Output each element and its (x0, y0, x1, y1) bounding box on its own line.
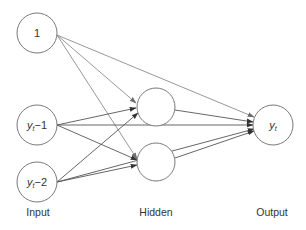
edge-hidden2-to-output (175, 131, 254, 158)
input-node-ylag2-label: yt−2 (26, 176, 47, 189)
input-node-ylag1: yt−1 (17, 105, 57, 145)
edge-ylag1-to-hidden2 (57, 125, 137, 160)
ylag2-tail: −2 (34, 176, 47, 188)
edge-bias-to-hidden2 (57, 35, 137, 159)
edge-ylag1-to-hidden1 (57, 108, 136, 125)
input-node-ylag1-label: yt−1 (26, 119, 47, 132)
edge-ylag2-to-hidden2 (57, 165, 137, 182)
edge-bias-to-hidden1 (57, 35, 136, 103)
hidden-node-2 (137, 143, 175, 181)
input-node-bias-label: 1 (34, 27, 40, 39)
input-node-ylag2: yt−2 (17, 162, 57, 202)
hidden-node-1 (137, 88, 175, 126)
neural-network-diagram: 1 yt−1 yt−2 yt Input Hidden Output (0, 0, 306, 230)
edge-ylag2-to-hidden1 (57, 113, 138, 182)
layer-label-input: Input (26, 206, 49, 218)
layer-label-output: Output (256, 206, 288, 218)
output-node: yt (253, 105, 293, 145)
layer-label-hidden: Hidden (139, 206, 172, 218)
input-node-bias: 1 (17, 13, 57, 53)
ylag1-tail: −1 (34, 119, 47, 131)
